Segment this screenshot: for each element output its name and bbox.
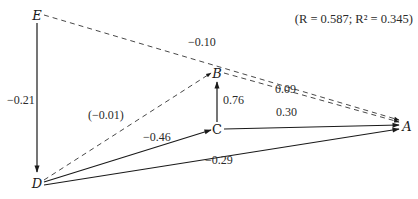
- edge-label-C-B: 0.76: [223, 93, 244, 107]
- path-diagram: (R = 0.587; R² = 0.345) −0.21 −0.10 (−0.…: [0, 0, 418, 199]
- edge-label-D-A: −0.29: [205, 153, 233, 167]
- node-E: E: [31, 8, 42, 23]
- edge-label-D-B: (−0.01): [88, 108, 124, 122]
- node-C: C: [212, 122, 222, 137]
- edge-label-E-A: −0.10: [188, 35, 216, 49]
- edge-D-B: [44, 73, 211, 180]
- edge-C-A: [224, 125, 399, 129]
- node-A: A: [401, 119, 411, 134]
- edge-label-D-C: −0.46: [143, 130, 171, 144]
- edge-label-B-A: 0.09: [275, 82, 296, 96]
- edge-label-E-D: −0.21: [7, 93, 35, 107]
- node-B: B: [211, 66, 222, 81]
- edge-label-C-A: 0.30: [276, 105, 297, 119]
- node-D: D: [31, 176, 43, 191]
- fit-statistics: (R = 0.587; R² = 0.345): [295, 12, 413, 26]
- edge-D-C: [44, 130, 211, 182]
- edge-B-A: [224, 73, 399, 122]
